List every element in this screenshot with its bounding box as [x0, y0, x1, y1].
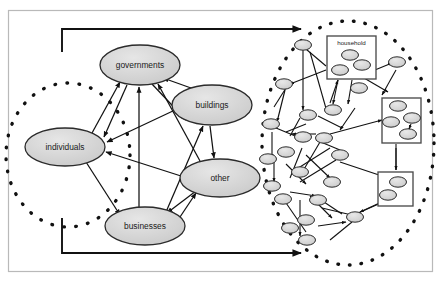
- agent-node[interactable]: [351, 83, 368, 93]
- agent-node[interactable]: [278, 147, 295, 157]
- node-businesses[interactable]: businesses: [105, 207, 185, 245]
- node-governments[interactable]: governments: [100, 45, 180, 85]
- agent-node[interactable]: [298, 215, 315, 225]
- agent-node[interactable]: [300, 110, 317, 120]
- node-other-shape[interactable]: [180, 159, 260, 197]
- agent-node[interactable]: [276, 79, 293, 89]
- agent-node[interactable]: [390, 101, 407, 111]
- box-3[interactable]: [378, 172, 413, 206]
- agent-node[interactable]: [263, 119, 280, 129]
- agent-node[interactable]: [264, 181, 281, 191]
- agent-node[interactable]: [390, 177, 407, 187]
- agent-node[interactable]: [347, 212, 364, 222]
- agent-node[interactable]: [295, 132, 312, 142]
- box-2[interactable]: [382, 98, 421, 143]
- agent-node[interactable]: [316, 133, 333, 143]
- agent-node[interactable]: [325, 105, 342, 115]
- agent-node[interactable]: [324, 177, 341, 187]
- agent-node[interactable]: [389, 57, 406, 67]
- agent-node[interactable]: [275, 194, 292, 204]
- agent-node[interactable]: [404, 113, 421, 123]
- agent-node[interactable]: [332, 65, 349, 75]
- agent-node[interactable]: [400, 129, 417, 139]
- node-individuals[interactable]: individuals: [25, 128, 105, 166]
- diagram-svg: governments buildings individuals other …: [0, 0, 445, 290]
- agent-node[interactable]: [295, 40, 312, 50]
- agent-node[interactable]: [332, 150, 349, 160]
- node-governments-shape[interactable]: [100, 45, 180, 85]
- agent-node[interactable]: [260, 154, 277, 164]
- agent-node[interactable]: [282, 223, 299, 233]
- agent-node[interactable]: [342, 50, 359, 60]
- agent-node[interactable]: [292, 167, 309, 177]
- agent-node[interactable]: [299, 235, 316, 245]
- agent-node[interactable]: [383, 117, 400, 127]
- node-other[interactable]: other: [180, 159, 260, 197]
- diagram-canvas: governments buildings individuals other …: [0, 0, 445, 290]
- agent-node[interactable]: [354, 60, 371, 70]
- node-individuals-shape[interactable]: [25, 128, 105, 166]
- node-buildings-shape[interactable]: [172, 85, 252, 125]
- box-household[interactable]: household: [327, 36, 376, 79]
- agent-node[interactable]: [310, 195, 327, 205]
- node-buildings[interactable]: buildings: [172, 85, 252, 125]
- agent-node[interactable]: [380, 190, 397, 200]
- node-businesses-shape[interactable]: [105, 207, 185, 245]
